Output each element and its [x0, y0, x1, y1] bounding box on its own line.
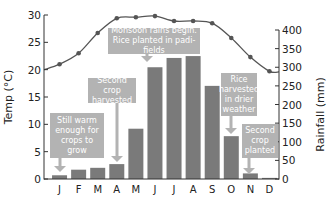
left-tick-label: 30 [28, 9, 41, 21]
rainfall-bar [147, 67, 162, 179]
right-tick-label: 50 [282, 154, 295, 166]
annotation-arrow-head [225, 128, 237, 134]
note-monsoon: Monsoon rains begin. Rice planted in pad… [108, 28, 200, 54]
left-tick-label: 0 [34, 173, 41, 185]
right-tick-label: 150 [282, 117, 302, 129]
rainfall-bar [52, 175, 67, 179]
temperature-point [57, 62, 62, 67]
right-tick-label: 250 [282, 80, 302, 92]
temperature-point [210, 21, 215, 26]
rainfall-bar [167, 58, 182, 179]
right-tick-label: 0 [282, 173, 289, 185]
left-tick-label: 25 [28, 36, 41, 48]
temperature-point [114, 16, 119, 21]
note-still-warm: Still warm enough for crops to grow [50, 113, 104, 158]
annotation-arrow-head [111, 156, 123, 162]
annotation-arrow-head [243, 168, 255, 174]
month-label: O [227, 184, 235, 195]
month-label: J [172, 184, 176, 195]
rainfall-bar [71, 170, 86, 179]
annotation-arrow-head [54, 166, 66, 172]
left-tick-label: 20 [28, 64, 41, 76]
right-tick-label: 400 [282, 24, 302, 36]
note-rice-harvested: Rice harvested in drier weather [221, 73, 257, 116]
month-label: N [247, 184, 254, 195]
right-tick-label: 350 [282, 43, 302, 55]
month-label: A [113, 184, 120, 195]
month-label: J [57, 184, 61, 195]
temperature-point [248, 55, 253, 60]
month-label: F [76, 184, 82, 195]
temperature-point [172, 19, 177, 24]
month-label: S [209, 184, 215, 195]
rainfall-bar [224, 136, 239, 179]
temperature-point [134, 15, 139, 20]
left-tick-label: 5 [34, 146, 41, 158]
temperature-point [153, 14, 158, 19]
left-tick-label: 10 [28, 118, 41, 130]
right-tick-label: 300 [282, 61, 302, 73]
right-tick-label: 100 [282, 136, 302, 148]
temperature-point [95, 31, 100, 36]
note-second-crop-harvested: Second crop harvested [88, 78, 136, 103]
temperature-point [229, 36, 234, 41]
month-label: A [190, 184, 197, 195]
right-axis-title: Rainfall (mm) [314, 77, 327, 151]
left-tick-label: 15 [28, 91, 41, 103]
month-label: M [93, 184, 102, 195]
rainfall-bar [243, 173, 258, 179]
right-tick-label: 200 [282, 99, 302, 111]
annotation-arrow-head [141, 56, 153, 62]
note-second-crop-planted: Second crop planted [242, 124, 278, 158]
rainfall-bar [128, 129, 143, 179]
temperature-point [191, 19, 196, 24]
month-label: D [266, 184, 274, 195]
month-label: M [132, 184, 141, 195]
rainfall-bar [109, 164, 124, 179]
temperature-point [267, 69, 272, 74]
climate-chart: 051015202530050100150200250300350400JFMA… [0, 0, 331, 201]
rainfall-bar [205, 86, 220, 179]
month-label: J [152, 184, 156, 195]
temperature-point [76, 51, 81, 56]
rainfall-bar [186, 56, 201, 179]
rainfall-bar [90, 168, 105, 179]
left-axis-title: Temp (°C) [2, 70, 15, 126]
